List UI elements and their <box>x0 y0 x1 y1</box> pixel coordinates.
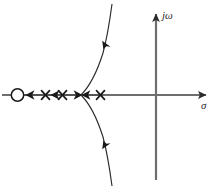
root-locus-canvas <box>0 0 219 187</box>
zero-marker-group <box>11 89 23 101</box>
upper-branch-path <box>81 4 112 95</box>
sigma-axis-label: σ <box>201 99 206 111</box>
root-locus-plot: σ jω <box>0 0 219 187</box>
open-circle-zero-icon <box>11 89 23 101</box>
lower-branch-path <box>81 95 112 186</box>
jomega-axis-label: jω <box>162 9 173 21</box>
